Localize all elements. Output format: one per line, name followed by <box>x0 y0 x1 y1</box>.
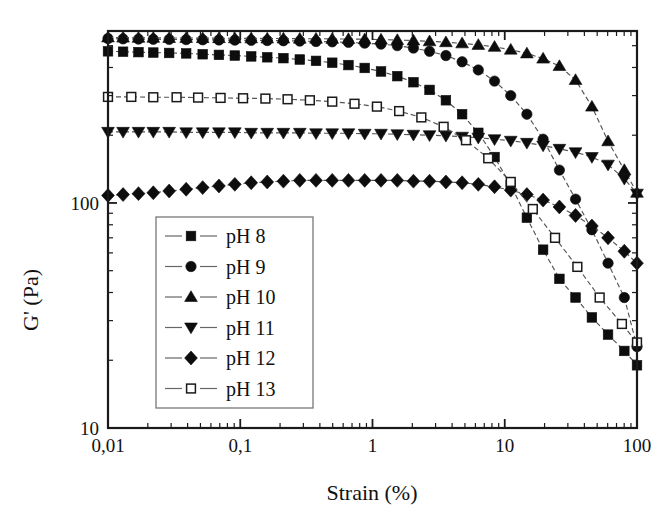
y-axis-title: G' (Pa) <box>18 269 43 331</box>
legend-marker <box>186 261 196 271</box>
data-point <box>310 129 323 140</box>
data-point <box>440 131 453 142</box>
data-point <box>522 109 532 119</box>
data-point <box>551 233 560 242</box>
data-point <box>595 293 604 302</box>
data-point <box>441 50 451 60</box>
data-point <box>506 90 516 100</box>
data-point <box>618 320 627 329</box>
data-point <box>407 174 420 188</box>
data-point <box>277 174 290 188</box>
data-point <box>504 43 517 54</box>
legend-label: pH 13 <box>226 378 275 401</box>
data-point <box>127 93 136 102</box>
figure-container: 0,010,111010010100 G' (Pa) Strain (%) pH… <box>0 0 661 523</box>
data-point <box>277 128 290 139</box>
data-point <box>373 102 382 111</box>
data-point <box>180 182 193 196</box>
data-point <box>117 127 130 138</box>
data-point <box>603 330 613 340</box>
data-point <box>245 128 258 139</box>
data-point <box>245 176 258 190</box>
x-tick-label: 100 <box>623 435 652 456</box>
data-point <box>198 49 208 59</box>
data-point <box>230 51 240 61</box>
data-point <box>305 96 314 105</box>
data-point <box>358 129 371 140</box>
legend-marker <box>187 384 196 393</box>
legend-marker <box>186 231 196 241</box>
data-point <box>213 128 226 139</box>
data-point <box>246 52 256 62</box>
data-point <box>293 128 306 139</box>
legend-label: pH 10 <box>226 286 275 309</box>
data-point <box>488 41 501 52</box>
data-point <box>473 65 483 75</box>
data-point <box>553 200 566 214</box>
data-point <box>283 95 292 104</box>
data-point <box>506 178 515 187</box>
data-point <box>261 175 274 189</box>
data-point <box>344 60 354 70</box>
data-point <box>488 180 501 194</box>
data-point <box>569 74 582 85</box>
x-tick-label: 1 <box>368 435 378 456</box>
legend-label: pH 9 <box>226 256 265 279</box>
data-point <box>618 164 631 175</box>
data-point <box>293 32 306 43</box>
data-point <box>310 173 323 187</box>
data-point <box>295 55 305 65</box>
data-point <box>457 57 467 67</box>
data-point <box>279 53 289 63</box>
data-point <box>216 94 225 103</box>
data-point <box>537 193 550 207</box>
data-point <box>228 177 241 191</box>
data-point <box>342 33 355 44</box>
data-point <box>164 48 174 58</box>
data-point <box>228 128 241 139</box>
data-point <box>440 36 453 47</box>
data-point <box>417 113 426 122</box>
data-point <box>375 173 388 187</box>
data-point <box>261 128 274 139</box>
data-point <box>488 135 501 146</box>
data-point <box>570 194 580 204</box>
data-point <box>407 130 420 141</box>
data-point <box>375 33 388 44</box>
x-axis-title: Strain (%) <box>326 480 417 505</box>
data-point <box>147 127 160 138</box>
data-point <box>163 127 176 138</box>
data-point <box>554 165 564 175</box>
data-point <box>196 181 209 195</box>
data-point <box>522 213 532 223</box>
data-point <box>117 188 130 202</box>
data-point <box>602 135 615 146</box>
data-point <box>261 94 270 103</box>
data-point <box>620 346 630 356</box>
data-point <box>149 93 158 102</box>
data-point <box>350 99 359 108</box>
data-point <box>569 208 582 222</box>
data-point <box>132 187 145 201</box>
data-point <box>392 71 402 81</box>
data-point <box>571 293 581 303</box>
legend-label: pH 12 <box>226 347 275 370</box>
data-point <box>456 176 469 190</box>
data-point <box>603 258 613 268</box>
data-point <box>262 52 272 62</box>
data-point <box>409 77 419 87</box>
data-point <box>521 138 534 149</box>
data-point <box>194 93 203 102</box>
data-point <box>293 173 306 187</box>
legend: pH 8pH 9pH 10pH 11pH 12pH 13 <box>156 217 313 408</box>
data-point <box>602 231 615 245</box>
data-point <box>573 262 582 271</box>
data-point <box>376 67 386 77</box>
data-point <box>520 188 533 202</box>
data-point <box>172 93 181 102</box>
data-point <box>327 58 337 68</box>
data-point <box>391 34 404 45</box>
data-point <box>213 179 226 193</box>
y-tick-label: 10 <box>80 418 99 439</box>
data-point <box>326 129 339 140</box>
